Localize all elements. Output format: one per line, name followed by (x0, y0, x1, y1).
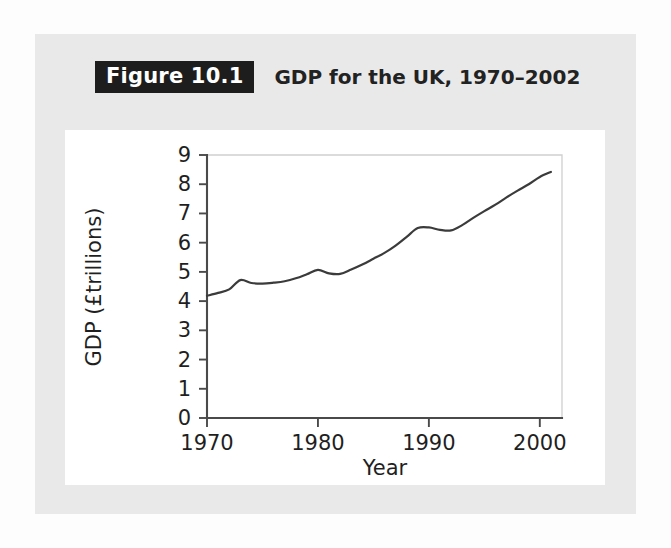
x-tick-label: 1980 (291, 431, 344, 455)
x-axis-title: Year (362, 456, 408, 480)
y-tick-label: 3 (178, 318, 191, 342)
y-tick-label: 6 (178, 231, 191, 255)
y-tick-label: 0 (178, 406, 191, 430)
x-tick-label: 1990 (402, 431, 455, 455)
plot-panel: 0123456789 1970198019902000 GDP (£trilli… (65, 130, 605, 485)
x-axis-tick-labels: 1970198019902000 (180, 431, 566, 455)
x-tick-label: 1970 (180, 431, 233, 455)
y-axis-tick-labels: 0123456789 (178, 143, 191, 430)
x-axis-ticks (207, 418, 540, 427)
y-tick-label: 8 (178, 172, 191, 196)
plot-axes (207, 155, 562, 418)
figure-card: Figure 10.1 GDP for the UK, 1970–2002 01… (35, 34, 636, 514)
y-axis-ticks (199, 155, 207, 418)
y-tick-label: 5 (178, 260, 191, 284)
gdp-series-line (207, 172, 551, 296)
figure-page: Figure 10.1 GDP for the UK, 1970–2002 01… (0, 0, 671, 548)
y-tick-label: 1 (178, 377, 191, 401)
y-tick-label: 2 (178, 348, 191, 372)
plot-frame (207, 155, 562, 418)
y-tick-label: 9 (178, 143, 191, 167)
x-tick-label: 2000 (513, 431, 566, 455)
y-axis-title: GDP (£trillions) (82, 208, 106, 367)
figure-header: Figure 10.1 GDP for the UK, 1970–2002 (95, 60, 580, 94)
y-tick-label: 7 (178, 201, 191, 225)
figure-title: GDP for the UK, 1970–2002 (274, 65, 580, 89)
line-chart: 0123456789 1970198019902000 GDP (£trilli… (65, 130, 605, 485)
y-tick-label: 4 (178, 289, 191, 313)
figure-number-badge: Figure 10.1 (95, 61, 254, 92)
